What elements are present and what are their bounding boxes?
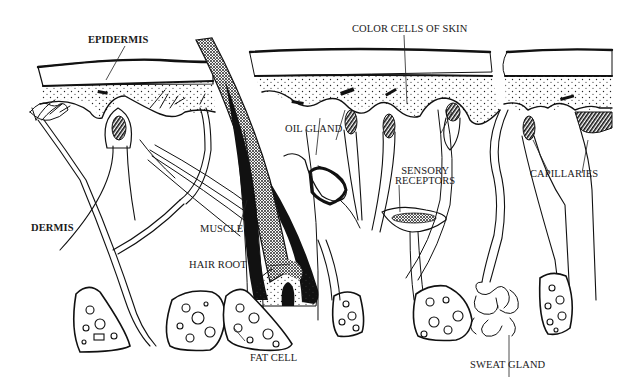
capillaries xyxy=(344,103,612,300)
label-color-cells-of-skin: COLOR CELLS OF SKIN xyxy=(352,23,467,34)
label-muscle: MUSCLE xyxy=(200,223,243,234)
sweat-gland xyxy=(470,110,518,336)
label-oil-gland: OIL GLAND xyxy=(285,123,342,134)
sensory-receptor xyxy=(382,110,452,300)
label-dermis: DERMIS xyxy=(31,222,74,233)
label-sensory-receptors: SENSORY RECEPTORS xyxy=(395,165,455,186)
label-sweat-gland: SWEAT GLAND xyxy=(470,359,545,370)
label-capillaries: CAPILLARIES xyxy=(530,168,598,179)
label-fat-cell: FAT CELL xyxy=(250,352,297,363)
label-sensory-line2: RECEPTORS xyxy=(395,175,455,186)
skin-cross-section-diagram xyxy=(0,0,622,390)
fat-cells xyxy=(74,273,573,352)
label-hair-root: HAIR ROOT xyxy=(189,259,247,270)
label-epidermis: EPIDERMIS xyxy=(88,34,148,45)
